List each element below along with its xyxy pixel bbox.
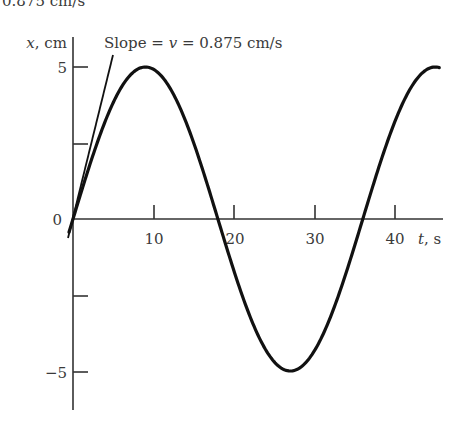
y-tick-label-5: 5 [57, 59, 67, 77]
x-axis-label: t, s [418, 230, 441, 248]
x-tick-label-10: 10 [144, 230, 163, 248]
slope-suffix: = 0.875 cm/s [177, 34, 282, 52]
slope-prefix: Slope = [104, 34, 169, 52]
x-tick-label-40: 40 [385, 230, 404, 248]
cutoff-text: 0.875 cm/s [2, 0, 85, 10]
y-axis-label: x, cm [26, 34, 67, 52]
y-tick-label-0: 0 [52, 211, 62, 229]
y-axis-label-unit: , cm [35, 34, 67, 52]
slope-annotation: Slope = v = 0.875 cm/s [104, 34, 282, 52]
x-tick-label-30: 30 [305, 230, 324, 248]
x-tick-label-20: 20 [225, 230, 244, 248]
x-axis-label-unit: , s [424, 230, 441, 248]
position-time-chart: 0.875 cm/s 5 0 −5 10 20 30 40 x, cm t, s… [0, 0, 462, 429]
y-tick-label-neg5: −5 [45, 364, 67, 382]
